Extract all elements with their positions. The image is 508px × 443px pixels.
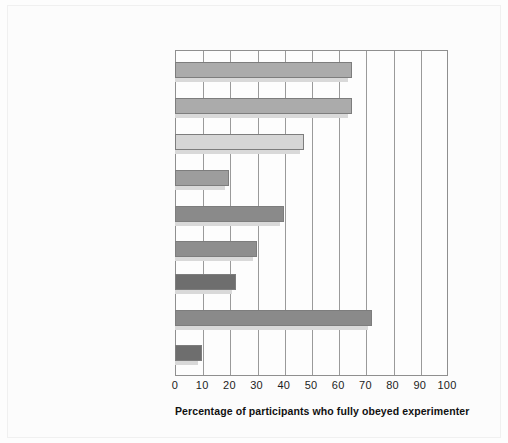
bar: [175, 206, 284, 222]
gridline: [421, 51, 422, 375]
x-axis-title: Percentage of participants who fully obe…: [175, 405, 475, 417]
bar: [175, 241, 257, 257]
x-tick-label: 60: [323, 379, 353, 391]
x-tick-label: 50: [296, 379, 326, 391]
bar-group: [175, 345, 202, 367]
bar-group: [175, 134, 304, 156]
x-tick-label: 70: [350, 379, 380, 391]
x-tick-label: 20: [214, 379, 244, 391]
bar-chart: Baseline—males Baseline—females Run-down…: [0, 0, 508, 443]
x-tick-label: 80: [378, 379, 408, 391]
gridline: [394, 51, 395, 375]
bar-group: [175, 170, 229, 192]
x-tick-label: 100: [432, 379, 462, 391]
x-tick-label: 90: [405, 379, 435, 391]
x-tick-label: 30: [242, 379, 272, 391]
figure-page: Baseline—males Baseline—females Run-down…: [0, 0, 508, 443]
bar-group: [175, 310, 372, 332]
bar: [175, 134, 304, 150]
bar: [175, 62, 352, 78]
bar-group: [175, 206, 284, 228]
bar: [175, 98, 352, 114]
bar: [175, 170, 229, 186]
x-tick-label: 10: [187, 379, 217, 391]
bar: [175, 274, 236, 290]
bar-group: [175, 62, 352, 84]
bar: [175, 345, 202, 361]
bar-group: [175, 241, 257, 263]
bar-group: [175, 98, 352, 120]
bar-group: [175, 274, 236, 296]
x-tick-label: 0: [160, 379, 190, 391]
bar: [175, 310, 372, 326]
x-tick-label: 40: [269, 379, 299, 391]
